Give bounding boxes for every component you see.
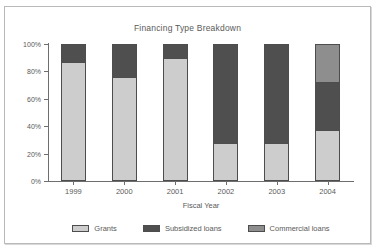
legend-label: Grants <box>94 224 117 233</box>
y-tick-label: 100% <box>23 41 41 48</box>
legend-swatch <box>248 225 265 232</box>
legend-swatch <box>72 225 89 232</box>
chart-title: Financing Type Breakdown <box>5 23 370 33</box>
bar-segment[interactable] <box>113 45 136 78</box>
legend-item[interactable]: Subsidized loans <box>143 224 222 233</box>
y-tick-mark <box>44 99 48 100</box>
chart-legend: GrantsSubsidized loansCommercial loans <box>48 218 354 238</box>
x-tick-mark <box>175 181 176 185</box>
bar-column[interactable] <box>213 44 238 181</box>
bar-column[interactable] <box>163 44 188 181</box>
bar-segment[interactable] <box>316 83 339 131</box>
x-tick-mark <box>124 181 125 185</box>
y-tick-mark <box>44 44 48 45</box>
x-tick-mark <box>328 181 329 185</box>
x-tick-mark <box>277 181 278 185</box>
bar-segment[interactable] <box>316 45 339 83</box>
y-tick-mark <box>44 126 48 127</box>
bar-segment[interactable] <box>265 144 288 180</box>
y-tick-label: 40% <box>27 123 41 130</box>
legend-swatch <box>143 225 160 232</box>
y-tick-mark <box>44 71 48 72</box>
legend-item[interactable]: Grants <box>72 224 117 233</box>
legend-label: Subsidized loans <box>165 224 222 233</box>
bar-column[interactable] <box>61 44 86 181</box>
legend-item[interactable]: Commercial loans <box>248 224 330 233</box>
bar-segment[interactable] <box>164 59 187 180</box>
bar-segment[interactable] <box>62 45 85 63</box>
bar-segment[interactable] <box>214 45 237 144</box>
bar-segment[interactable] <box>265 45 288 144</box>
y-tick-label: 80% <box>27 68 41 75</box>
bar-segment[interactable] <box>316 131 339 180</box>
y-tick-mark <box>44 154 48 155</box>
x-tick-mark <box>226 181 227 185</box>
y-tick-label: 60% <box>27 95 41 102</box>
bar-column[interactable] <box>264 44 289 181</box>
bar-segment[interactable] <box>113 78 136 180</box>
bar-segment[interactable] <box>62 63 85 180</box>
plot-area: 0%20%40%60%80%100% <box>48 44 353 181</box>
bar-column[interactable] <box>315 44 340 181</box>
y-tick-mark <box>44 181 48 182</box>
x-tick-label: 2004 <box>298 187 358 196</box>
x-axis-line <box>48 181 354 182</box>
chart-figure: Financing Type Breakdown 0%20%40%60%80%1… <box>4 6 371 244</box>
bar-segment[interactable] <box>214 144 237 180</box>
y-tick-label: 20% <box>27 150 41 157</box>
x-axis-title: Fiscal Year <box>48 201 354 210</box>
bar-segment[interactable] <box>164 45 187 59</box>
x-tick-mark <box>73 181 74 185</box>
y-tick-label: 0% <box>31 178 41 185</box>
legend-label: Commercial loans <box>270 224 330 233</box>
bar-column[interactable] <box>112 44 137 181</box>
